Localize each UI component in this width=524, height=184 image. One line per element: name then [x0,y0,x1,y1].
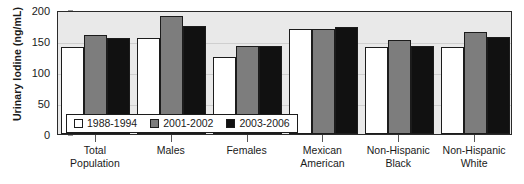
legend-item: 2001-2002 [150,118,213,129]
bar [312,29,335,134]
legend-swatch-icon [74,119,83,128]
x-axis-category-line: Mexican [300,144,344,157]
x-axis-category-label: Males [157,144,185,157]
x-axis-category-label: TotalPopulation [70,144,120,169]
bar [411,46,434,134]
chart-legend: 1988-19942001-20022003-2006 [66,114,298,133]
legend-item: 2003-2006 [226,118,289,129]
bar [464,32,487,134]
x-axis-category-label: Non-HispanicBlack [367,144,430,169]
legend-swatch-icon [150,119,159,128]
x-axis-category-line: Males [157,144,185,157]
legend-label: 1988-1994 [87,118,137,129]
x-axis-category-line: Black [367,157,430,170]
x-axis-category-line: Non-Hispanic [367,144,430,157]
y-axis-tick-label: 150 [20,37,50,48]
x-axis-category-label: Non-HispanicWhite [443,144,506,169]
x-axis-category-line: White [443,157,506,170]
x-axis-tick-mark [247,135,248,142]
bar [335,27,358,134]
y-axis-tick-label: 200 [20,6,50,17]
x-axis-category-line: American [300,157,344,170]
y-axis-tick-label: 100 [20,68,50,79]
x-axis-tick-mark [95,135,96,142]
x-axis-category-label: MexicanAmerican [300,144,344,169]
x-axis: TotalPopulationMalesFemalesMexicanAmeric… [57,135,512,184]
x-axis-category-line: Population [70,157,120,170]
bar [365,47,388,134]
bar [388,40,411,134]
y-axis-tick-label: 0 [20,130,50,141]
bar [441,47,464,134]
x-axis-tick-mark [474,135,475,142]
x-axis-category-line: Females [226,144,266,157]
x-axis-tick-mark [322,135,323,142]
x-axis-tick-mark [171,135,172,142]
legend-swatch-icon [226,119,235,128]
y-axis-tick-label: 50 [20,99,50,110]
x-axis-category-line: Non-Hispanic [443,144,506,157]
x-axis-category-line: Total [70,144,120,157]
legend-label: 2003-2006 [239,118,289,129]
legend-item: 1988-1994 [74,118,137,129]
bar [487,37,510,134]
bar-group [437,12,512,134]
x-axis-category-label: Females [226,144,266,157]
chart-figure: Urinary Iodine (ng/mL) 050100150200 1988… [0,0,524,184]
x-axis-tick-mark [398,135,399,142]
y-axis-tick-labels: 050100150200 [16,0,50,184]
legend-label: 2001-2002 [163,118,213,129]
bar-group [361,12,437,134]
